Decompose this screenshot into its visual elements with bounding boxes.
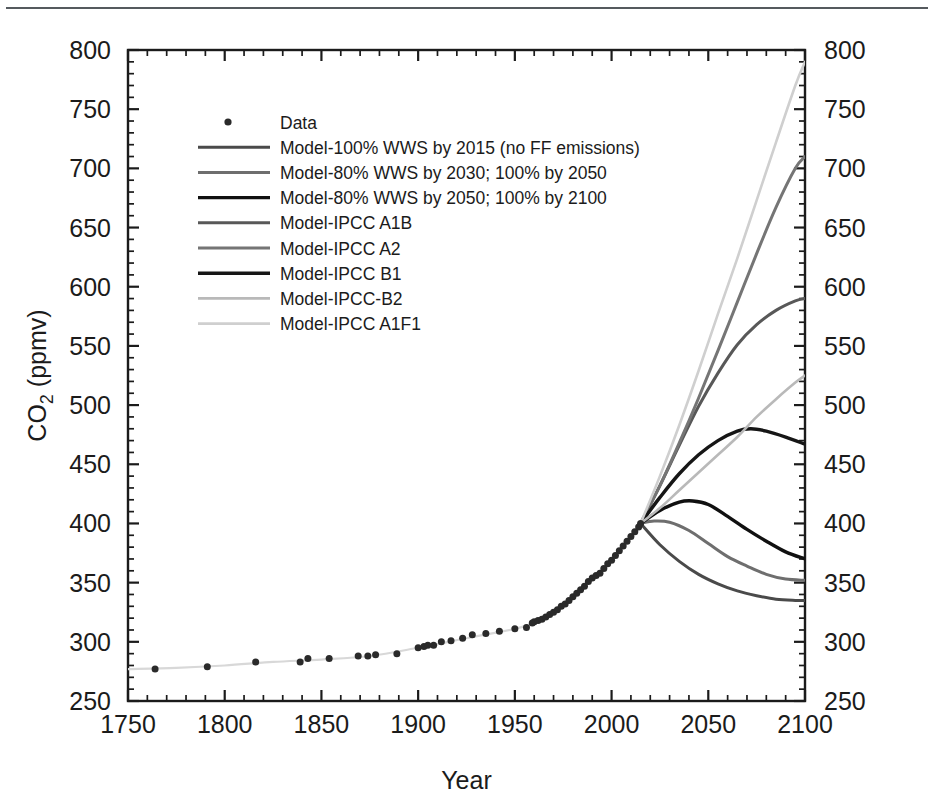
data-point	[415, 644, 422, 651]
legend-label-4: Model-IPCC A1B	[280, 213, 412, 233]
y-tick-label: 650	[69, 214, 111, 242]
y-tick-label: 300	[69, 628, 111, 656]
y-tick-label: 550	[69, 332, 111, 360]
y-tick-label-right: 600	[824, 273, 866, 301]
data-point	[204, 663, 211, 670]
series-line-4	[641, 157, 805, 524]
y-tick-label: 350	[69, 569, 111, 597]
y-tick-label-right: 400	[824, 509, 866, 537]
y-tick-label: 500	[69, 391, 111, 419]
data-point	[459, 635, 466, 642]
y-tick-label-right: 500	[824, 391, 866, 419]
legend-label-6: Model-IPCC B1	[280, 264, 402, 284]
legend-label-8: Model-IPCC A1F1	[280, 314, 421, 334]
data-point	[372, 651, 379, 658]
x-tick-label: 1800	[197, 710, 253, 738]
y-tick-label: 250	[69, 687, 111, 715]
data-point	[438, 638, 445, 645]
y-tick-label-right: 800	[824, 36, 866, 64]
x-tick-label: 1950	[487, 710, 543, 738]
legend: DataModel-100% WWS by 2015 (no FF emissi…	[198, 113, 640, 335]
y-tick-label: 450	[69, 450, 111, 478]
y-tick-label: 600	[69, 273, 111, 301]
data-point	[252, 658, 259, 665]
data-point	[152, 666, 159, 673]
series-line-6	[641, 376, 805, 524]
y-tick-label-right: 350	[824, 569, 866, 597]
x-tick-label: 1850	[294, 710, 350, 738]
series-line-0	[641, 523, 805, 600]
data-point	[430, 642, 437, 649]
data-point	[637, 520, 644, 527]
legend-label-5: Model-IPCC A2	[280, 239, 401, 259]
legend-marker-dot	[224, 118, 231, 125]
x-tick-label: 2000	[584, 710, 640, 738]
y-tick-label-right: 550	[824, 332, 866, 360]
x-tick-label: 1900	[390, 710, 446, 738]
y-tick-label: 700	[69, 154, 111, 182]
data-point	[297, 658, 304, 665]
co2-projection-chart: 1750180018501900195020002050210025025030…	[0, 0, 934, 810]
historical-fit-line	[128, 523, 641, 669]
data-point	[304, 655, 311, 662]
legend-label-0: Data	[280, 113, 317, 133]
x-axis-title: Year	[441, 766, 492, 794]
series-line-7	[641, 62, 805, 524]
data-point	[364, 653, 371, 660]
y-tick-label-right: 250	[824, 687, 866, 715]
y-tick-label-right: 650	[824, 214, 866, 242]
y-tick-label: 750	[69, 95, 111, 123]
legend-label-2: Model-80% WWS by 2030; 100% by 2050	[280, 163, 607, 183]
y-tick-label-right: 300	[824, 628, 866, 656]
x-tick-label: 2050	[680, 710, 736, 738]
y-tick-label: 800	[69, 36, 111, 64]
top-divider-rule	[6, 7, 928, 9]
y-tick-label-right: 750	[824, 95, 866, 123]
y-tick-label-right: 450	[824, 450, 866, 478]
y-axis-title: CO2 (ppmv)	[23, 309, 57, 441]
legend-label-7: Model-IPCC-B2	[280, 289, 403, 309]
data-point	[469, 631, 476, 638]
legend-label-3: Model-80% WWS by 2050; 100% by 2100	[280, 188, 607, 208]
data-point	[448, 637, 455, 644]
data-point	[511, 625, 518, 632]
figure-root: 1750180018501900195020002050210025025030…	[0, 0, 934, 810]
data-point	[523, 624, 530, 631]
data-point	[496, 628, 503, 635]
data-point	[355, 653, 362, 660]
data-point	[326, 655, 333, 662]
data-point	[482, 630, 489, 637]
y-tick-label-right: 700	[824, 154, 866, 182]
data-point	[393, 650, 400, 657]
y-tick-label: 400	[69, 509, 111, 537]
legend-label-1: Model-100% WWS by 2015 (no FF emissions)	[280, 138, 640, 158]
